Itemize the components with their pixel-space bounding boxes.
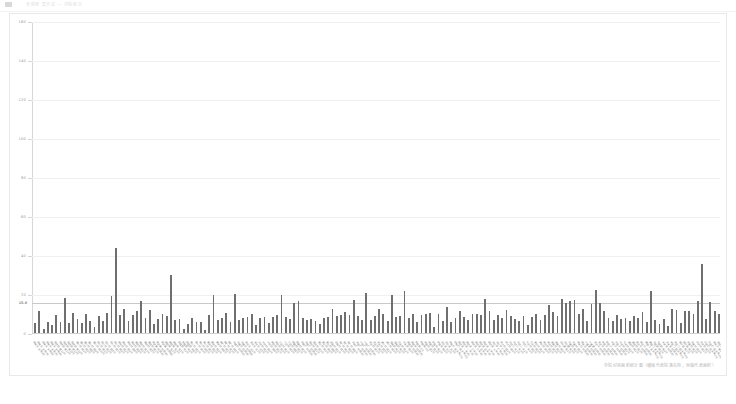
bar[interactable]	[535, 314, 537, 334]
bar[interactable]	[446, 307, 448, 333]
bar[interactable]	[94, 327, 96, 333]
bar[interactable]	[319, 324, 321, 333]
bar[interactable]	[574, 300, 576, 333]
bar[interactable]	[412, 314, 414, 333]
bar[interactable]	[81, 323, 83, 333]
bar[interactable]	[684, 311, 686, 333]
bar[interactable]	[523, 316, 525, 333]
bar[interactable]	[480, 315, 482, 333]
bar[interactable]	[540, 320, 542, 333]
bar[interactable]	[149, 310, 151, 333]
bar[interactable]	[680, 323, 682, 333]
bar[interactable]	[349, 315, 351, 333]
bar[interactable]	[140, 301, 142, 333]
bar[interactable]	[293, 303, 295, 333]
bar[interactable]	[646, 322, 648, 333]
bar[interactable]	[659, 324, 661, 333]
bar[interactable]	[332, 309, 334, 333]
bar[interactable]	[514, 319, 516, 333]
bar[interactable]	[548, 305, 550, 333]
bar[interactable]	[531, 317, 533, 333]
bar[interactable]	[518, 321, 520, 333]
bar[interactable]	[259, 318, 261, 333]
bar[interactable]	[285, 317, 287, 333]
bar[interactable]	[455, 318, 457, 333]
bar[interactable]	[85, 314, 87, 333]
bar[interactable]	[421, 315, 423, 333]
bar[interactable]	[629, 321, 631, 333]
bar[interactable]	[438, 314, 440, 333]
bar[interactable]	[34, 323, 36, 333]
bar[interactable]	[51, 325, 53, 333]
bar[interactable]	[374, 316, 376, 333]
bar[interactable]	[650, 291, 652, 333]
bar[interactable]	[310, 319, 312, 333]
bar[interactable]	[476, 314, 478, 334]
bar[interactable]	[399, 316, 401, 333]
bar[interactable]	[676, 310, 678, 333]
bar[interactable]	[608, 318, 610, 333]
bar[interactable]	[289, 319, 291, 333]
bar[interactable]	[238, 320, 240, 333]
bar[interactable]	[387, 321, 389, 333]
bar[interactable]	[425, 314, 427, 333]
bar[interactable]	[166, 316, 168, 333]
bar[interactable]	[561, 299, 563, 333]
bar[interactable]	[191, 318, 193, 333]
bar[interactable]	[506, 310, 508, 333]
bar[interactable]	[637, 318, 639, 333]
bar[interactable]	[697, 301, 699, 333]
bar[interactable]	[204, 330, 206, 333]
bar[interactable]	[463, 317, 465, 333]
bar[interactable]	[408, 318, 410, 333]
bar[interactable]	[395, 317, 397, 333]
bar[interactable]	[217, 320, 219, 333]
bar[interactable]	[106, 313, 108, 333]
bar[interactable]	[162, 314, 164, 334]
bar[interactable]	[102, 321, 104, 333]
bar[interactable]	[43, 329, 45, 333]
bar[interactable]	[89, 321, 91, 333]
bar[interactable]	[242, 318, 244, 333]
bar[interactable]	[323, 318, 325, 333]
bar[interactable]	[327, 317, 329, 333]
bar[interactable]	[442, 321, 444, 333]
bar[interactable]	[264, 317, 266, 333]
bar[interactable]	[663, 319, 665, 333]
bar[interactable]	[200, 322, 202, 333]
bar[interactable]	[557, 316, 559, 333]
bar[interactable]	[705, 319, 707, 333]
bar[interactable]	[298, 301, 300, 333]
bar[interactable]	[72, 313, 74, 333]
bar[interactable]	[484, 299, 486, 333]
bar[interactable]	[527, 325, 529, 333]
bar[interactable]	[693, 314, 695, 334]
bar[interactable]	[179, 319, 181, 333]
bar[interactable]	[132, 315, 134, 333]
bar[interactable]	[196, 322, 198, 333]
bar[interactable]	[599, 303, 601, 333]
bar[interactable]	[603, 311, 605, 333]
bar[interactable]	[416, 322, 418, 333]
bar[interactable]	[230, 322, 232, 333]
bar[interactable]	[633, 316, 635, 333]
bar[interactable]	[586, 321, 588, 333]
bar[interactable]	[701, 264, 703, 333]
bar[interactable]	[382, 314, 384, 333]
bar[interactable]	[344, 312, 346, 333]
bar[interactable]	[544, 315, 546, 333]
bar[interactable]	[353, 300, 355, 333]
bar[interactable]	[315, 321, 317, 333]
bar[interactable]	[510, 316, 512, 333]
bar[interactable]	[119, 315, 121, 333]
bar[interactable]	[336, 316, 338, 333]
bar[interactable]	[64, 298, 66, 333]
bar[interactable]	[654, 320, 656, 333]
bar[interactable]	[38, 311, 40, 333]
bar[interactable]	[370, 320, 372, 333]
bar[interactable]	[459, 311, 461, 333]
bar[interactable]	[667, 326, 669, 333]
bar[interactable]	[582, 309, 584, 333]
bar[interactable]	[688, 311, 690, 333]
bar[interactable]	[225, 313, 227, 333]
